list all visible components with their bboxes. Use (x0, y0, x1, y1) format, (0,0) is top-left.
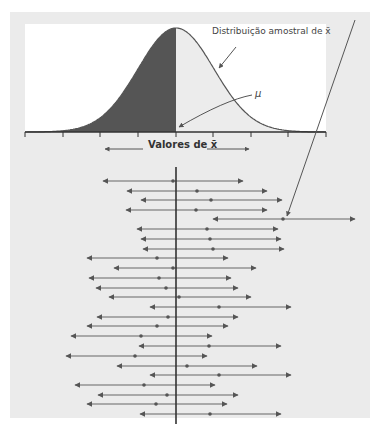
confidence-interval (87, 402, 227, 406)
confidence-interval (139, 344, 281, 348)
sample-mean-dot (205, 227, 209, 231)
confidence-interval (141, 198, 282, 202)
confidence-interval (150, 373, 291, 377)
confidence-interval (141, 237, 281, 241)
sample-mean-dot (281, 217, 285, 221)
confidence-interval (87, 256, 228, 260)
confidence-interval (213, 217, 355, 221)
confidence-interval (98, 393, 238, 397)
confidence-interval (114, 266, 256, 270)
confidence-interval (126, 208, 267, 212)
sample-mean-dot (157, 276, 161, 280)
confidence-interval (71, 334, 212, 338)
sample-mean-dot (154, 402, 158, 406)
confidence-interval (140, 412, 281, 416)
confidence-intervals (66, 167, 355, 424)
confidence-interval (96, 286, 238, 290)
sample-mean-dot (217, 305, 221, 309)
confidence-interval (97, 315, 238, 319)
sample-mean-dot (217, 373, 221, 377)
sample-mean-dot (155, 324, 159, 328)
sample-mean-dot (142, 383, 146, 387)
sample-mean-dot (166, 315, 170, 319)
mu-label: μ (255, 88, 261, 99)
sample-mean-dot (139, 334, 143, 338)
sample-mean-dot (155, 256, 159, 260)
sample-mean-dot (165, 393, 169, 397)
sample-mean-dot (164, 286, 168, 290)
confidence-interval (66, 354, 207, 358)
sample-mean-dot (195, 189, 199, 193)
sample-mean-dot (171, 179, 175, 183)
confidence-interval (117, 364, 257, 368)
confidence-interval (127, 189, 267, 193)
sample-mean-dot (208, 412, 212, 416)
sample-mean-dot (185, 364, 189, 368)
diagram: Distribuição amostral de x̄ μ Valores de… (0, 0, 379, 434)
diagram-canvas (0, 0, 379, 434)
sample-mean-dot (211, 247, 215, 251)
confidence-interval (75, 383, 215, 387)
confidence-interval (137, 227, 278, 231)
sample-mean-dot (194, 208, 198, 212)
sample-mean-dot (207, 344, 211, 348)
confidence-interval (109, 295, 251, 299)
confidence-interval (143, 247, 284, 251)
sample-mean-dot (171, 266, 175, 270)
dist-label: Distribuição amostral de x̄ (212, 26, 331, 36)
confidence-interval (150, 305, 291, 309)
confidence-interval (89, 276, 231, 280)
sample-mean-dot (177, 295, 181, 299)
sample-mean-dot (208, 237, 212, 241)
axis-label: Valores de x̄ (148, 139, 217, 150)
sample-mean-dot (133, 354, 137, 358)
confidence-interval (103, 179, 243, 183)
sample-mean-dot (209, 198, 213, 202)
confidence-interval (87, 324, 228, 328)
